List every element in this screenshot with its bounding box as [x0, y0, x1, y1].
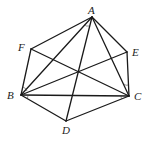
segment-DC [66, 96, 129, 121]
segment-BC [21, 95, 129, 96]
segment-FB [21, 49, 31, 95]
segment-EA [92, 17, 127, 52]
segment-AD [66, 17, 92, 121]
segments [21, 17, 129, 121]
label-E: E [131, 46, 139, 58]
segment-BD [21, 95, 66, 121]
label-B: B [7, 89, 14, 101]
segment-AF [31, 17, 92, 49]
segment-CE [127, 52, 129, 96]
geometry-diagram: A B C D E F [0, 0, 149, 146]
label-C: C [134, 90, 142, 102]
label-F: F [17, 41, 25, 53]
segment-AB [21, 17, 92, 95]
label-D: D [61, 124, 70, 136]
segment-FC [31, 49, 129, 96]
segment-AC [92, 17, 129, 96]
label-A: A [87, 4, 95, 16]
